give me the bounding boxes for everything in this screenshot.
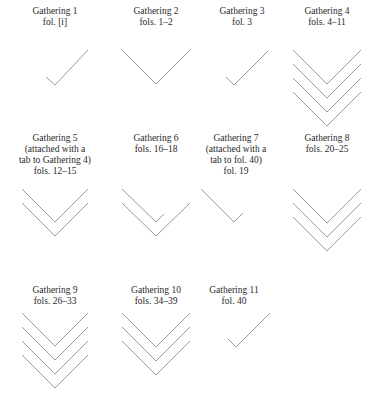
gathering-9-diagram bbox=[22, 313, 88, 388]
gathering-2-diagram bbox=[122, 50, 190, 84]
bifolium bbox=[22, 313, 88, 346]
bifolium bbox=[293, 217, 361, 251]
bifolium bbox=[122, 203, 190, 236]
singleton-leaf bbox=[201, 189, 243, 222]
bifolium bbox=[293, 78, 361, 112]
gathering-4-diagram bbox=[293, 50, 361, 126]
gathering-3-diagram bbox=[226, 51, 268, 85]
gathering-7-diagram bbox=[201, 189, 243, 222]
bifolium bbox=[293, 50, 361, 84]
bifolium bbox=[22, 189, 88, 222]
gathering-8-diagram bbox=[293, 189, 361, 251]
singleton-leaf bbox=[122, 189, 164, 222]
bifolium bbox=[122, 327, 190, 361]
bifolium bbox=[22, 327, 88, 360]
singleton-leaf bbox=[228, 313, 270, 347]
bifolium bbox=[122, 341, 190, 375]
bifolium bbox=[122, 313, 190, 347]
singleton-leaf bbox=[46, 50, 88, 85]
bifolium bbox=[293, 92, 361, 126]
gathering-6-diagram bbox=[122, 189, 190, 236]
singleton-leaf bbox=[226, 51, 268, 85]
gathering-11-diagram bbox=[228, 313, 270, 347]
gathering-1-diagram bbox=[46, 50, 88, 85]
gathering-5-diagram bbox=[22, 189, 88, 236]
bifolium bbox=[122, 50, 190, 84]
collation-diagram bbox=[0, 0, 377, 406]
bifolium bbox=[293, 203, 361, 237]
bifolium bbox=[293, 189, 361, 223]
bifolium bbox=[293, 64, 361, 98]
bifolium bbox=[22, 203, 88, 236]
gathering-10-diagram bbox=[122, 313, 190, 375]
